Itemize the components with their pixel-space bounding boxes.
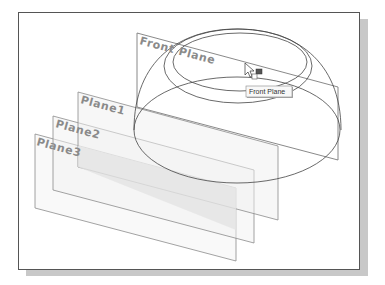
tooltip-text: Front Plane <box>249 88 285 95</box>
cad-graphics-area[interactable]: Front Plane Plane1 Plane2 Plane3 Front P… <box>0 0 385 285</box>
tooltip: Front Plane <box>246 86 293 98</box>
